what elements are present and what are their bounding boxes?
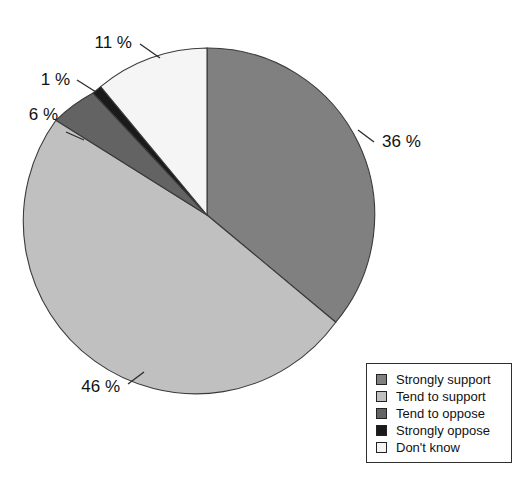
pie-label-tend-to-support: 46 % xyxy=(81,377,120,396)
pie-chart-page: 36 % 46 % 6 % 1 % 11 % Strongly support … xyxy=(0,0,527,502)
legend-item-dont-know[interactable]: Don't know xyxy=(376,439,503,455)
leader-line-strongly-oppose xyxy=(77,80,96,92)
legend-item-label: Strongly support xyxy=(396,372,491,387)
legend-item-label: Tend to support xyxy=(396,389,486,404)
legend-item-tend-to-oppose[interactable]: Tend to oppose xyxy=(376,405,503,421)
leader-line-dont-know xyxy=(140,44,160,58)
legend-swatch-icon xyxy=(376,374,387,385)
pie-label-tend-to-oppose: 6 % xyxy=(29,105,58,124)
pie-label-strongly-support: 36 % xyxy=(382,132,421,151)
pie-label-dont-know: 11 % xyxy=(95,33,133,52)
legend-swatch-icon xyxy=(376,391,387,402)
chart-legend: Strongly support Tend to support Tend to… xyxy=(366,363,512,463)
legend-swatch-icon xyxy=(376,442,387,453)
legend-swatch-icon xyxy=(376,425,387,436)
legend-swatch-icon xyxy=(376,408,387,419)
legend-item-label: Don't know xyxy=(396,440,460,455)
pie-label-strongly-oppose: 1 % xyxy=(41,70,70,89)
leader-line-strongly-support xyxy=(358,130,374,142)
legend-item-label: Tend to oppose xyxy=(396,406,485,421)
legend-item-strongly-oppose[interactable]: Strongly oppose xyxy=(376,422,503,438)
legend-item-strongly-support[interactable]: Strongly support xyxy=(376,371,503,387)
legend-item-label: Strongly oppose xyxy=(396,423,490,438)
legend-item-tend-to-support[interactable]: Tend to support xyxy=(376,388,503,404)
